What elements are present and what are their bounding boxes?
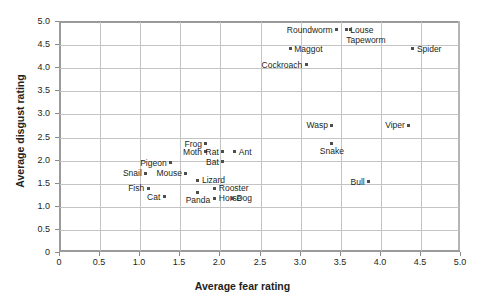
- x-tick-label: 3.0: [280, 257, 320, 267]
- plot-area: RoundwormLouseTapewormMaggotSpiderCockro…: [59, 21, 460, 252]
- data-point: [144, 172, 147, 175]
- x-tick-label: 4.5: [400, 257, 440, 267]
- gridline-vertical: [301, 22, 302, 251]
- data-point-label: Ant: [239, 147, 252, 156]
- data-point-label: Cat: [147, 192, 160, 201]
- x-tick: [260, 252, 261, 256]
- x-tick-label: 3.5: [320, 257, 360, 267]
- x-tick-label: 2.0: [199, 257, 239, 267]
- data-point-label: Roundworm: [287, 25, 333, 34]
- data-point: [184, 172, 187, 175]
- gridline-horizontal: [60, 161, 459, 162]
- gridline-horizontal: [60, 184, 459, 185]
- data-point-label: Bull: [351, 177, 365, 186]
- data-point-label: Bat: [206, 157, 219, 166]
- x-tick: [340, 252, 341, 256]
- x-tick-label: 4.0: [360, 257, 400, 267]
- x-tick-label: 1.0: [119, 257, 159, 267]
- data-point: [213, 197, 216, 200]
- x-tick: [99, 252, 100, 256]
- data-point: [335, 28, 338, 31]
- data-point-label: Rooster: [219, 184, 249, 193]
- x-tick: [139, 252, 140, 256]
- gridline-vertical: [180, 22, 181, 251]
- data-point-label: Moth: [183, 147, 202, 156]
- gridline-horizontal: [60, 45, 459, 46]
- y-tick: [55, 137, 59, 138]
- x-tick-label: 0.5: [79, 257, 119, 267]
- data-point-label: Panda: [186, 196, 211, 205]
- data-point: [330, 124, 333, 127]
- data-point-label: Snail: [123, 169, 142, 178]
- y-tick: [55, 206, 59, 207]
- plot-border-right: [458, 21, 460, 252]
- data-point: [213, 187, 216, 190]
- y-tick: [55, 229, 59, 230]
- data-point-label: Louse: [350, 25, 373, 34]
- gridline-vertical: [421, 22, 422, 251]
- x-axis-title: Average fear rating: [0, 280, 485, 292]
- y-axis-title: Average disgust rating: [14, 21, 26, 241]
- data-point: [204, 142, 207, 145]
- gridline-vertical: [261, 22, 262, 251]
- y-tick-label: 0: [10, 247, 50, 257]
- data-point: [411, 47, 414, 50]
- y-tick: [55, 21, 59, 22]
- y-tick: [55, 183, 59, 184]
- data-point: [221, 160, 224, 163]
- x-tick: [300, 252, 301, 256]
- x-tick-label: 2.5: [240, 257, 280, 267]
- data-point-label: Cockroach: [262, 60, 303, 69]
- y-tick: [55, 90, 59, 91]
- data-point: [289, 47, 292, 50]
- x-tick-label: 1.5: [159, 257, 199, 267]
- plot-border-top: [59, 21, 460, 23]
- gridline-vertical: [140, 22, 141, 251]
- data-point: [196, 179, 199, 182]
- gridline-horizontal: [60, 230, 459, 231]
- data-point: [233, 150, 236, 153]
- data-point-label: Wasp: [306, 121, 327, 130]
- y-tick: [55, 113, 59, 114]
- gridline-vertical: [381, 22, 382, 251]
- gridline-horizontal: [60, 68, 459, 69]
- plot-border-left: [59, 21, 61, 252]
- y-tick: [55, 252, 59, 253]
- data-point: [345, 28, 348, 31]
- data-point: [169, 161, 172, 164]
- data-point-label: Rat: [206, 147, 219, 156]
- data-point: [407, 124, 410, 127]
- data-point: [305, 63, 308, 66]
- data-point-label: Pigeon: [140, 158, 166, 167]
- data-point: [349, 28, 352, 31]
- y-tick: [55, 67, 59, 68]
- gridline-vertical: [100, 22, 101, 251]
- y-tick: [55, 160, 59, 161]
- x-tick: [460, 252, 461, 256]
- x-tick: [219, 252, 220, 256]
- gridline-horizontal: [60, 91, 459, 92]
- data-point: [221, 150, 224, 153]
- data-point-label: Maggot: [294, 44, 322, 53]
- scatter-chart: RoundwormLouseTapewormMaggotSpiderCockro…: [0, 0, 485, 304]
- x-tick: [179, 252, 180, 256]
- y-tick: [55, 44, 59, 45]
- data-point: [231, 197, 234, 200]
- data-point-label: Fish: [128, 184, 144, 193]
- x-tick-label: 0: [39, 257, 79, 267]
- data-point: [367, 180, 370, 183]
- data-point: [163, 195, 166, 198]
- data-point-label: Viper: [385, 121, 405, 130]
- data-point-label: Snake: [320, 147, 344, 156]
- gridline-horizontal: [60, 207, 459, 208]
- gridline-vertical: [220, 22, 221, 251]
- gridline-vertical: [341, 22, 342, 251]
- x-tick: [59, 252, 60, 256]
- x-tick: [380, 252, 381, 256]
- data-point-label: Dog: [236, 194, 252, 203]
- data-point-label: Spider: [417, 44, 442, 53]
- x-tick: [420, 252, 421, 256]
- data-point-label: Tapeworm: [346, 35, 385, 44]
- data-point-label: Mouse: [156, 169, 182, 178]
- data-point: [147, 187, 150, 190]
